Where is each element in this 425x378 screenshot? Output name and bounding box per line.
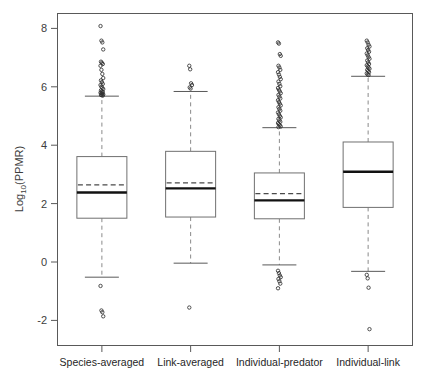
x-axis-category-label: Individual-link — [336, 356, 400, 368]
y-tick-label: 2 — [41, 198, 47, 210]
x-axis-category-label: Link-averaged — [157, 356, 224, 368]
box-iqr — [343, 142, 393, 207]
box-iqr — [254, 173, 304, 219]
boxplot-figure: Log10(PPMR) 86420-2 Species-averagedLink… — [0, 0, 425, 378]
x-axis-category-label: Species-averaged — [60, 356, 145, 368]
y-tick-label: 8 — [41, 22, 47, 34]
y-axis-title-tail: (PPMR) — [13, 146, 25, 185]
y-tick-label: 6 — [41, 81, 47, 93]
boxplot-svg: Log10(PPMR) 86420-2 Species-averagedLink… — [0, 0, 425, 378]
y-tick-label: 4 — [41, 139, 47, 151]
x-axis-category-label: Individual-predator — [236, 356, 323, 368]
box-iqr — [166, 151, 216, 217]
y-tick-label: -2 — [37, 314, 47, 326]
y-axis-title-main: Log — [13, 194, 25, 212]
box-iqr — [77, 157, 127, 219]
y-tick-label: 0 — [41, 256, 47, 268]
